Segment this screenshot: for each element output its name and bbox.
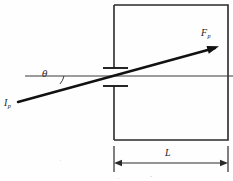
dimension-arrow-left xyxy=(114,160,122,166)
label-incident-ray: Ip xyxy=(4,98,11,109)
label-incident-ray-subscript: p xyxy=(7,102,10,109)
ray-stroke xyxy=(18,48,215,102)
figure-container: Ip Fp θ L xyxy=(0,0,233,181)
figure-drawing xyxy=(0,0,233,181)
label-focal-point-subscript: p xyxy=(207,32,210,39)
ray-line xyxy=(18,46,219,102)
label-angle-theta: θ xyxy=(42,70,47,79)
label-focal-point: Fp xyxy=(201,28,211,39)
dimension-line-L xyxy=(114,146,228,172)
label-length-L: L xyxy=(165,148,171,158)
angle-arc-theta xyxy=(60,76,64,84)
aperture-box-outline xyxy=(114,5,228,140)
ray-arrowhead xyxy=(207,46,220,54)
dimension-arrow-right xyxy=(220,160,228,166)
aperture-box xyxy=(114,5,228,140)
